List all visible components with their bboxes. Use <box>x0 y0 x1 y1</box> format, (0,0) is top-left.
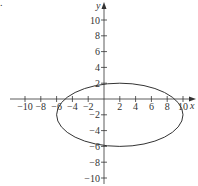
ellipse-curve <box>57 83 183 146</box>
x-tick-label: 2 <box>117 101 122 112</box>
x-tick-label: 10 <box>178 101 188 112</box>
ellipse-chart: . xy −10−8−6−4−2246810−10−8−6−4−2246810 <box>0 0 198 186</box>
y-axis-label: y <box>95 0 101 11</box>
y-tick-label: 2 <box>95 78 100 89</box>
y-tick-label: −8 <box>89 157 100 168</box>
figure-label: . <box>0 0 3 8</box>
axes: xy <box>10 0 196 184</box>
y-tick-label: −10 <box>84 173 100 184</box>
x-tick-label: 6 <box>149 101 154 112</box>
x-axis-label: x <box>189 100 195 111</box>
x-tick-label: −10 <box>17 101 33 112</box>
y-axis-arrow-icon <box>102 2 107 9</box>
y-tick-label: 10 <box>90 15 100 26</box>
x-tick-label: 8 <box>165 101 170 112</box>
y-tick-label: −4 <box>89 125 100 136</box>
x-tick-label: −4 <box>67 101 78 112</box>
x-tick-label: 4 <box>133 101 138 112</box>
y-tick-label: 4 <box>95 62 100 73</box>
x-tick-label: −6 <box>51 101 62 112</box>
y-tick-label: 8 <box>95 30 100 41</box>
x-tick-label: −8 <box>35 101 46 112</box>
data-series <box>57 83 183 146</box>
y-tick-label: 6 <box>95 46 100 57</box>
y-tick-label: −2 <box>89 109 100 120</box>
